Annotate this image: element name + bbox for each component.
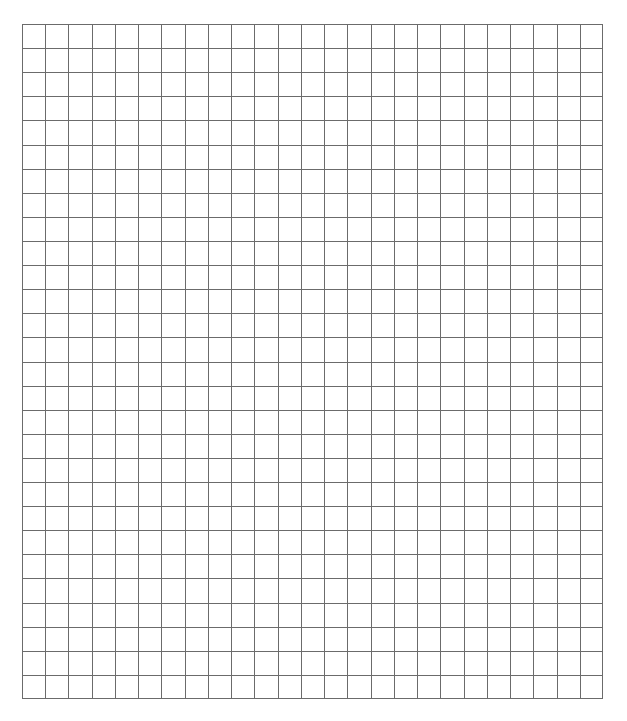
grid-lines xyxy=(22,24,603,699)
graph-paper-grid xyxy=(22,24,603,699)
